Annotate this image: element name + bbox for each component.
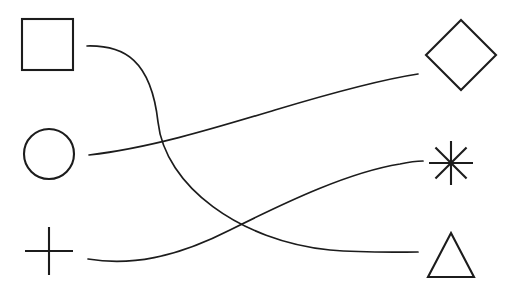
connector-circle-diamond[interactable] [89,74,418,155]
plus-icon[interactable] [25,227,73,275]
circle-icon[interactable] [24,129,74,179]
connector-square-triangle[interactable] [87,46,418,252]
left-shapes-group [22,19,74,275]
diagram-canvas [0,0,515,287]
triangle-icon[interactable] [428,233,474,277]
right-shapes-group [426,20,496,277]
asterisk-icon[interactable] [429,141,473,185]
connector-plus-asterisk[interactable] [88,161,423,261]
diagram-svg [0,0,515,287]
connectors-group [87,46,423,261]
square-icon[interactable] [22,19,73,70]
diamond-icon[interactable] [426,20,496,90]
